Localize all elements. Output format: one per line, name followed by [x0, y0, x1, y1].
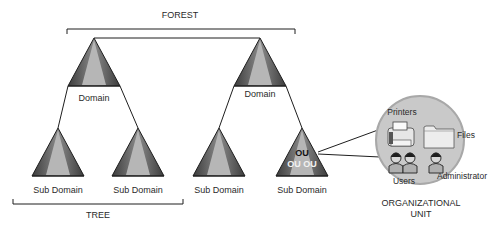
printers-label: Printers: [387, 107, 416, 117]
ou-title-line1: ORGANIZATIONAL: [382, 198, 461, 208]
subdomain-label-4: Sub Domain: [277, 185, 327, 195]
tree-label: TREE: [86, 210, 110, 220]
domain-label-1: Domain: [78, 93, 109, 103]
subdomain-label-3: Sub Domain: [194, 185, 244, 195]
folder-icon: [424, 126, 454, 148]
forest-diagram: [0, 0, 502, 231]
ou-title-line2: UNIT: [411, 209, 432, 219]
subdomain-label-1: Sub Domain: [33, 185, 83, 195]
ou-label-bottom: OU OU: [287, 159, 317, 169]
domain-triangle-1: [68, 38, 120, 86]
ou-label-top: OU: [295, 148, 309, 158]
forest-label: FOREST: [162, 10, 199, 20]
tree-bracket: [13, 199, 183, 204]
files-label: Files: [457, 130, 475, 140]
domain-triangle-2: [234, 38, 286, 86]
subdomain-triangle-2: [112, 128, 164, 176]
subdomain-triangle-1: [32, 128, 84, 176]
subdomain-label-2: Sub Domain: [113, 185, 163, 195]
domain-label-2: Domain: [244, 89, 275, 99]
forest-bracket: [67, 29, 295, 34]
users-label: Users: [393, 176, 415, 186]
ou-link-lines: [318, 130, 380, 157]
administrator-label: Administrator: [437, 171, 487, 181]
subdomain-triangle-3: [193, 128, 245, 176]
